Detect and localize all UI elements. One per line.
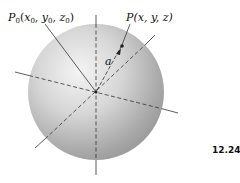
point-p-dot bbox=[120, 44, 124, 48]
label-p: P(x, y, z) bbox=[126, 12, 173, 23]
label-p0: P0(x0, y0, z0) bbox=[8, 12, 74, 25]
center-point-dot bbox=[95, 91, 98, 94]
figure-number: 12.24 bbox=[212, 145, 240, 155]
sphere-diagram bbox=[0, 0, 240, 183]
label-a: a bbox=[105, 56, 112, 67]
p0-close: ) bbox=[70, 11, 74, 24]
